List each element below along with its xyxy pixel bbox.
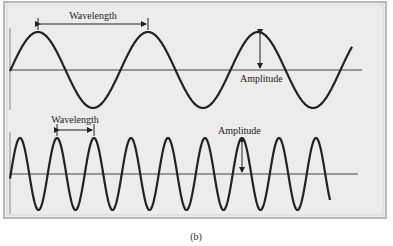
top-wavelength-label: Wavelength bbox=[69, 10, 117, 21]
wave-diagram: Wavelength Amplitude Wavelength Amplitud… bbox=[0, 0, 393, 246]
top-amplitude-label: Amplitude bbox=[240, 73, 283, 84]
bottom-amplitude-label: Amplitude bbox=[218, 125, 261, 136]
figure-caption: (b) bbox=[190, 231, 202, 243]
panel-frame bbox=[4, 2, 386, 218]
bottom-wavelength-label: Wavelength bbox=[51, 114, 99, 125]
